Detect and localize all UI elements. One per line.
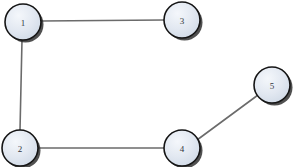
- graph-edge-1-2: [20, 40, 22, 130]
- node-label-5: 5: [270, 81, 275, 91]
- graph-node-3[interactable]: 3: [164, 2, 203, 41]
- nodes-layer: 12345: [2, 2, 293, 167]
- node-label-4: 4: [180, 144, 185, 154]
- graph-canvas: 12345: [0, 0, 293, 167]
- graph-node-1[interactable]: 1: [5, 4, 44, 43]
- node-label-2: 2: [18, 144, 23, 154]
- graph-node-4[interactable]: 4: [164, 130, 203, 167]
- graph-node-2[interactable]: 2: [2, 130, 41, 167]
- graph-edge-1-3: [41, 20, 164, 21]
- edges-layer: [20, 20, 258, 148]
- graph-diagram: 12345: [0, 0, 293, 167]
- node-label-1: 1: [21, 18, 26, 28]
- graph-edge-4-5: [197, 95, 258, 140]
- node-label-3: 3: [180, 16, 185, 26]
- graph-node-5[interactable]: 5: [254, 67, 293, 106]
